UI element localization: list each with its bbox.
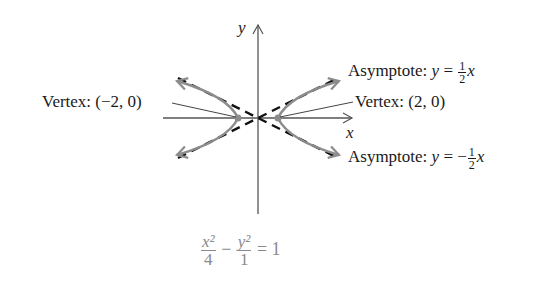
term1-denominator: 4 (201, 251, 216, 268)
asymptote-positive-eq: = (439, 61, 457, 80)
hyperbola-left-lower (177, 118, 238, 155)
equation-term2: y²1 (237, 233, 252, 268)
asymptote-positive-lhs: y (432, 61, 440, 80)
hyperbola-left-upper (177, 81, 238, 118)
equation-term1: x²4 (201, 233, 216, 268)
asymptote-positive-prefix: Asymptote: (348, 61, 432, 80)
x-axis-label: x (346, 124, 354, 141)
asymptote-negative-eq: = (439, 147, 457, 166)
asymptote-negative-fraction: 12 (468, 146, 476, 171)
asymptote-positive-label: Asymptote: y = 12x (348, 60, 475, 85)
asymptote-negative-sign: − (457, 147, 467, 166)
fraction-denominator: 2 (458, 73, 466, 85)
asymptote-negative-prefix: Asymptote: (348, 147, 432, 166)
vertex-right-dot (275, 115, 282, 122)
hyperbola-equation: x²4 − y²1 = 1 (200, 233, 281, 268)
asymptote-negative-label: Asymptote: y = −12x (348, 146, 484, 171)
asymptote-negative-lhs: y (432, 147, 440, 166)
asymptote-positive-fraction: 12 (458, 60, 466, 85)
vertex-left-dot (235, 115, 242, 122)
equation-operator: − (217, 239, 236, 259)
fraction-denominator: 2 (468, 159, 476, 171)
y-axis-label: y (238, 19, 246, 36)
term2-numerator: y² (237, 233, 252, 251)
term1-numerator: x² (201, 233, 216, 251)
asymptote-negative-var: x (477, 147, 485, 166)
vertex-left-label: Vertex: (−2, 0) (42, 93, 142, 110)
equation-rhs: = 1 (252, 239, 280, 259)
term2-denominator: 1 (237, 251, 252, 268)
hyperbola-right-upper (278, 81, 339, 118)
asymptote-positive-var: x (467, 61, 475, 80)
vertex-right-label: Vertex: (2, 0) (355, 93, 445, 110)
hyperbola-right-lower (278, 118, 339, 155)
vertex-right-leader (280, 102, 353, 117)
